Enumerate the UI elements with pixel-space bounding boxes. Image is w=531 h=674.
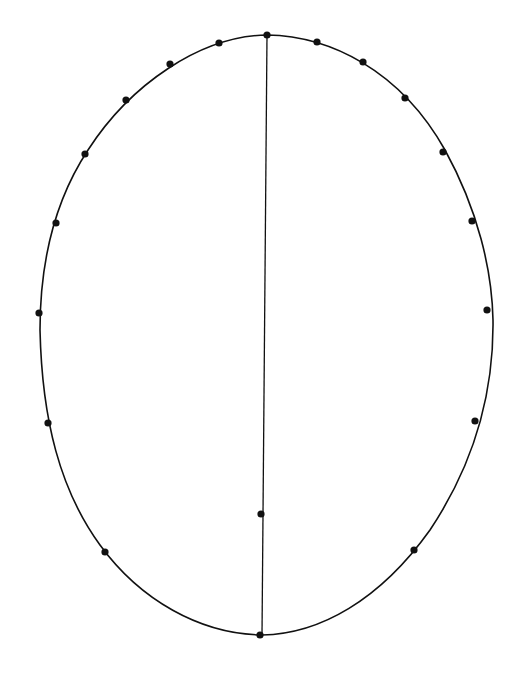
perimeter-point-11 xyxy=(44,419,51,426)
perimeter-point-6 xyxy=(483,306,490,313)
egg-oval-diagram xyxy=(0,0,531,674)
inner-point-0 xyxy=(257,510,264,517)
perimeter-point-9 xyxy=(256,631,263,638)
perimeter-point-7 xyxy=(471,417,478,424)
perimeter-point-10 xyxy=(101,548,108,555)
perimeter-point-8 xyxy=(410,546,417,553)
perimeter-point-3 xyxy=(401,94,408,101)
perimeter-point-14 xyxy=(81,150,88,157)
vertical-axis-line xyxy=(262,35,267,635)
perimeter-point-0 xyxy=(263,31,270,38)
perimeter-point-12 xyxy=(35,309,42,316)
inner-points xyxy=(257,510,264,517)
perimeter-point-17 xyxy=(215,39,222,46)
perimeter-point-2 xyxy=(359,58,366,65)
perimeter-point-13 xyxy=(52,219,59,226)
perimeter-point-15 xyxy=(122,96,129,103)
diagram-canvas xyxy=(0,0,531,674)
perimeter-point-5 xyxy=(468,217,475,224)
perimeter-point-4 xyxy=(439,148,446,155)
perimeter-point-16 xyxy=(166,60,173,67)
perimeter-point-1 xyxy=(313,38,320,45)
